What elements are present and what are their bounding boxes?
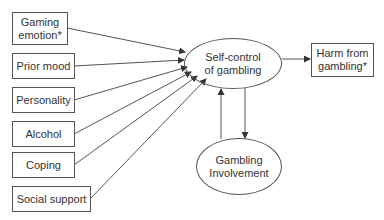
node-gambling-involvement: Gambling Involvement <box>196 138 282 195</box>
node-label: Gaming emotion* <box>18 16 61 42</box>
node-label: Coping <box>26 159 61 172</box>
edge-alcohol-to-self-control <box>74 72 191 134</box>
node-prior-mood: Prior mood <box>12 53 75 79</box>
edge-gaming-emotion-to-self-control <box>67 28 185 52</box>
node-gaming-emotion: Gaming emotion* <box>12 12 68 45</box>
node-label: Prior mood <box>17 60 71 73</box>
node-label: Personality <box>16 94 70 107</box>
node-personality: Personality <box>12 87 75 113</box>
node-label: Gambling Involvement <box>209 154 268 180</box>
node-harm-from-gambling: Harm from gambling* <box>311 43 374 77</box>
node-alcohol: Alcohol <box>12 121 75 147</box>
node-social-support: Social support <box>12 186 91 212</box>
node-label: Harm from gambling* <box>317 47 369 73</box>
node-coping: Coping <box>12 152 75 178</box>
node-label: Social support <box>17 193 87 206</box>
edge-prior-mood-to-self-control <box>74 60 184 66</box>
node-self-control: Self-control of gambling <box>184 38 282 89</box>
edge-social-support-to-self-control <box>90 79 206 199</box>
node-label: Alcohol <box>25 128 61 141</box>
node-label: Self-control of gambling <box>205 51 262 77</box>
